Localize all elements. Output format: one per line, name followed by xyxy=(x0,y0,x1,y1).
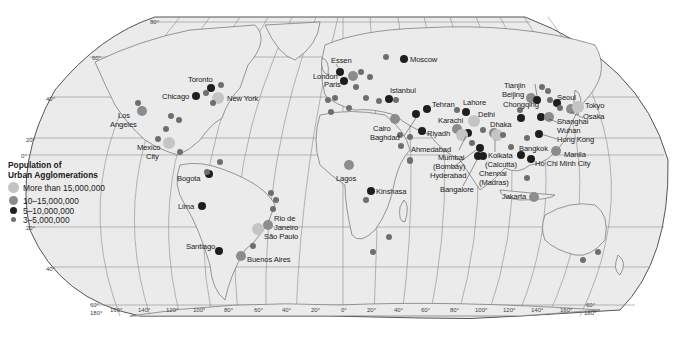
city-label-angeles: Angeles xyxy=(110,121,137,129)
city-dot xyxy=(325,97,331,103)
lon-tick-20w: 20° xyxy=(311,307,320,313)
city-dot-ho-chi-minh-city xyxy=(527,155,535,163)
lon-tick-80e: 80° xyxy=(450,307,459,313)
lon-tick-180e: 180° xyxy=(584,310,596,316)
city-dot-chicago xyxy=(192,92,200,100)
legend-swatch-15plus-icon xyxy=(8,182,19,193)
city-dot xyxy=(268,190,274,196)
lat-tick-20s: 20° xyxy=(26,225,35,231)
city-label-ho-chi-minh-city: Ho Chi Minh City xyxy=(535,160,590,168)
city-dot-los-angeles xyxy=(137,106,147,116)
city-dot xyxy=(218,82,224,88)
city-label-chongqing: Chongqing xyxy=(503,101,539,109)
city-dot xyxy=(539,84,545,90)
city-dot xyxy=(135,100,141,106)
lat-tick-20: 20° xyxy=(26,137,35,143)
city-label-hyderabad: Hyderabad xyxy=(430,172,466,180)
lat-tick-40s: 40° xyxy=(46,266,55,272)
city-dot-santiago xyxy=(215,247,223,255)
city-label-bogota: Bogota xyxy=(177,175,200,183)
city-dot-hyderabad xyxy=(476,144,484,152)
city-dot-moscow xyxy=(400,55,408,63)
city-dot-lima xyxy=(198,202,206,210)
city-label-santiago: Santiago xyxy=(186,243,215,251)
city-dot xyxy=(177,149,183,155)
city-dot xyxy=(500,132,506,138)
city-label-buenos-aires: Buenos Aires xyxy=(247,256,291,264)
city-label-dhaka: Dhaka xyxy=(490,121,511,129)
legend-swatch-10-15-icon xyxy=(9,196,18,205)
city-dot xyxy=(217,159,223,165)
city-dot xyxy=(407,158,413,164)
city-dot-lagos xyxy=(344,160,354,170)
city-dot xyxy=(163,126,169,132)
lon-tick-80w: 80° xyxy=(224,307,233,313)
city-label-hong-kong: Hong Kong xyxy=(557,136,594,144)
lon-tick-120w: 120° xyxy=(166,307,178,313)
city-label-lahore: Lahore xyxy=(463,99,486,107)
city-dot xyxy=(398,143,404,149)
city-label-moscow: Moscow xyxy=(410,56,437,64)
legend-title-line1: Population of xyxy=(8,160,105,170)
city-dot xyxy=(557,105,563,111)
city-label-baghdad: Baghdad xyxy=(370,134,400,142)
city-dot xyxy=(358,69,364,75)
city-label-sao-paulo: São Paulo xyxy=(264,233,298,241)
city-dot xyxy=(370,249,376,255)
legend-swatch-3-5-icon xyxy=(11,217,16,222)
lat-tick-60s: 60° xyxy=(90,302,99,308)
lon-tick-0: 0° xyxy=(341,307,347,313)
legend-swatch-5-10-icon xyxy=(10,207,17,214)
city-dot-wuhan xyxy=(537,113,545,121)
city-dot-cairo xyxy=(390,114,400,124)
city-dot xyxy=(328,109,334,115)
city-dot xyxy=(273,197,279,203)
city-dot xyxy=(545,88,551,94)
lon-tick-140e: 140° xyxy=(531,307,543,313)
city-dot-riyadh xyxy=(418,127,426,135)
city-dot-buenos-aires xyxy=(236,251,246,261)
city-dot xyxy=(386,234,392,240)
city-label-bangalore: Bangalore xyxy=(440,186,474,194)
lon-tick-40w: 40° xyxy=(282,307,291,313)
city-dot-london xyxy=(348,71,358,81)
city-label-lagos: Lagos xyxy=(336,175,356,183)
city-label-paris: Paris xyxy=(324,81,341,89)
city-label-essen: Essen xyxy=(331,57,352,65)
city-dot xyxy=(367,74,373,80)
city-dot-melbourne xyxy=(580,257,586,263)
city-label-chicago: Chicago xyxy=(162,93,189,101)
city-label-seoul: Seoul xyxy=(557,94,576,102)
city-dot-chennai xyxy=(479,152,487,160)
lon-tick-60w: 60° xyxy=(254,307,263,313)
legend-label-10-15: 10–15,000,000 xyxy=(23,196,79,206)
legend-label-3-5: 3–5,000,000 xyxy=(23,215,70,225)
city-dot-lahore xyxy=(462,108,470,116)
city-dot-chongqing xyxy=(517,114,525,122)
city-label-beijing: Beijing xyxy=(502,91,524,99)
city-dot xyxy=(204,169,210,175)
lon-tick-20e: 20° xyxy=(367,307,376,313)
legend-item-15plus: More than 15,000,000 xyxy=(8,182,105,193)
city-dot xyxy=(363,197,369,203)
city-label-karachi: Karachi xyxy=(438,117,463,125)
city-dot-paris xyxy=(340,77,348,85)
legend-item-3-5: 3–5,000,000 xyxy=(8,215,105,224)
city-label-tokyo: Tokyo xyxy=(585,102,604,110)
lon-tick-120e: 120° xyxy=(503,307,515,313)
city-label-kinshasa: Kinshasa xyxy=(376,188,406,196)
city-dot xyxy=(363,95,369,101)
city-label-city: City xyxy=(146,153,159,161)
city-dot xyxy=(203,90,209,96)
city-label-istanbul: Istanbul xyxy=(390,87,416,95)
city-label-tehran: Tehran xyxy=(432,101,455,109)
city-dot xyxy=(210,100,216,106)
city-dot xyxy=(469,140,475,146)
city-label-lima: Lima xyxy=(178,203,194,211)
map-legend: Population of Urban Agglomerations More … xyxy=(8,160,105,224)
city-dot-rio-de-janeiro xyxy=(263,220,273,230)
city-dot-manila xyxy=(551,146,561,156)
city-dot xyxy=(155,136,161,142)
city-dot xyxy=(524,135,530,141)
city-dot-sao-paulo xyxy=(252,223,264,235)
